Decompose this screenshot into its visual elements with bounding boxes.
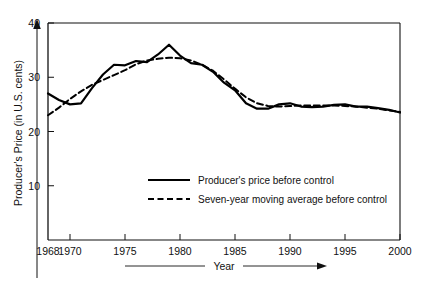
x-axis-title-group: Year bbox=[125, 260, 327, 272]
y-axis-title: Producer's Price (in U.S. cents) bbox=[12, 60, 24, 206]
y-tick-label: 30 bbox=[28, 71, 40, 83]
series-group bbox=[48, 45, 400, 116]
series-line-1 bbox=[48, 58, 400, 116]
x-tick-label: 1985 bbox=[223, 245, 247, 257]
chart-figure: 10203040 1968197019751980198519901995200… bbox=[0, 0, 428, 285]
y-tick-label: 40 bbox=[28, 17, 40, 29]
x-axis-ticks: 19681970197519801985199019952000 bbox=[36, 234, 412, 257]
y-axis-ticks: 10203040 bbox=[28, 17, 54, 192]
y-tick-label: 20 bbox=[28, 126, 40, 138]
plot-frame bbox=[48, 23, 400, 240]
x-tick-label: 1995 bbox=[333, 245, 357, 257]
x-axis-title: Year bbox=[213, 260, 235, 272]
x-tick-label: 1970 bbox=[58, 245, 82, 257]
x-tick-label: 2000 bbox=[388, 245, 412, 257]
x-tick-label: 1990 bbox=[278, 245, 302, 257]
chart-svg: 10203040 1968197019751980198519901995200… bbox=[0, 0, 428, 285]
y-tick-label: 10 bbox=[28, 180, 40, 192]
legend-label-1: Seven-year moving average before control bbox=[198, 194, 387, 205]
x-tick-label: 1975 bbox=[113, 245, 137, 257]
x-tick-label: 1980 bbox=[168, 245, 192, 257]
legend-label-0: Producer's price before control bbox=[198, 175, 334, 186]
y-axis-arrow-icon bbox=[33, 19, 41, 278]
x-tick-label: 1968 bbox=[36, 245, 60, 257]
chart-legend: Producer's price before control Seven-ye… bbox=[148, 175, 387, 205]
